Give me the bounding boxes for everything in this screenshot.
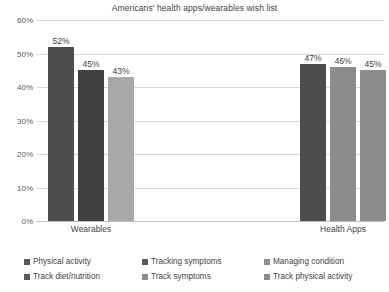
bar-chart: Americans' health apps/wearables wish li… bbox=[0, 0, 389, 292]
gridline-50%: 50% bbox=[37, 54, 384, 55]
bar: 47% bbox=[300, 64, 326, 221]
legend-label: Physical activity bbox=[33, 258, 91, 266]
legend-swatch-icon bbox=[24, 274, 30, 280]
y-axis-tick-label: 30% bbox=[17, 116, 33, 125]
legend-item[interactable]: Track symptoms bbox=[142, 273, 264, 281]
chart-title: Americans' health apps/wearables wish li… bbox=[0, 3, 389, 13]
bar-value-label: 52% bbox=[52, 36, 69, 46]
legend-swatch-icon bbox=[264, 259, 270, 265]
legend-item[interactable]: Physical activity bbox=[24, 258, 142, 266]
y-axis-tick-label: 50% bbox=[17, 49, 33, 58]
legend-label: Track symptoms bbox=[151, 273, 211, 281]
legend-item[interactable]: Managing condition bbox=[264, 258, 374, 266]
bar: 45% bbox=[78, 70, 104, 221]
chart-legend: Physical activityTracking symptomsManagi… bbox=[24, 255, 374, 285]
gridline-0%: 0% bbox=[37, 221, 384, 222]
bar: 52% bbox=[48, 47, 74, 221]
legend-swatch-icon bbox=[142, 274, 148, 280]
y-axis-tick-label: 0% bbox=[21, 217, 33, 226]
legend-item[interactable]: Track physical activity bbox=[264, 273, 374, 281]
legend-swatch-icon bbox=[24, 259, 30, 265]
gridline-60%: 60% bbox=[37, 20, 384, 21]
bar: 45% bbox=[360, 70, 386, 221]
bar: 46% bbox=[330, 67, 356, 221]
x-axis-category-health-apps: Health Apps bbox=[320, 224, 366, 234]
legend-label: Track physical activity bbox=[273, 273, 352, 281]
legend-item[interactable]: Tracking symptoms bbox=[142, 258, 264, 266]
y-axis-tick-label: 60% bbox=[17, 16, 33, 25]
legend-swatch-icon bbox=[264, 274, 270, 280]
legend-label: Track diet/nutrition bbox=[33, 273, 100, 281]
bar-value-label: 47% bbox=[304, 53, 321, 63]
legend-label: Managing condition bbox=[273, 258, 344, 266]
y-axis-tick-label: 20% bbox=[17, 150, 33, 159]
bar-value-label: 46% bbox=[334, 56, 351, 66]
bar-value-label: 45% bbox=[82, 59, 99, 69]
bar: 43% bbox=[108, 77, 134, 221]
bar-value-label: 45% bbox=[364, 59, 381, 69]
x-axis-category-wearables: Wearables bbox=[71, 224, 111, 234]
y-axis-tick-label: 40% bbox=[17, 83, 33, 92]
y-axis-tick-label: 10% bbox=[17, 183, 33, 192]
legend-swatch-icon bbox=[142, 259, 148, 265]
legend-label: Tracking symptoms bbox=[151, 258, 222, 266]
bar-value-label: 43% bbox=[112, 66, 129, 76]
legend-item[interactable]: Track diet/nutrition bbox=[24, 273, 142, 281]
plot-area: 0%10%20%30%40%50%60% 52%45%43%47%46%45% bbox=[37, 20, 384, 221]
